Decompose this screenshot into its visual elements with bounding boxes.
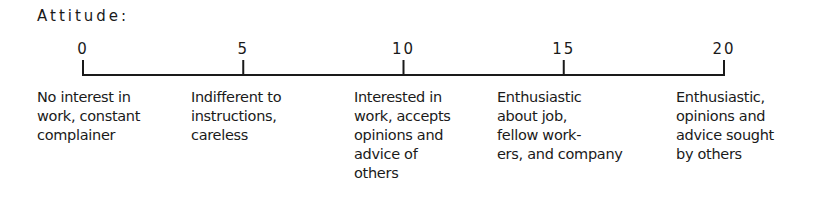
scale-tick-label: 20 bbox=[712, 40, 735, 58]
scale-tick-label: 0 bbox=[77, 40, 89, 58]
scale-description: Indifferent to instructions, careless bbox=[191, 88, 281, 145]
scale-description: Interested in work, accepts opinions and… bbox=[354, 88, 451, 183]
scale-description: Enthusiastic about job, fellow work- ers… bbox=[497, 88, 623, 164]
scale-description: Enthusiastic, opinions and advice sought… bbox=[676, 88, 774, 164]
attitude-scale: 05101520 bbox=[0, 0, 825, 90]
scale-description: No interest in work, constant complainer bbox=[37, 88, 140, 145]
scale-tick-label: 5 bbox=[237, 40, 249, 58]
scale-tick-label: 10 bbox=[392, 40, 415, 58]
scale-tick-label: 15 bbox=[552, 40, 575, 58]
